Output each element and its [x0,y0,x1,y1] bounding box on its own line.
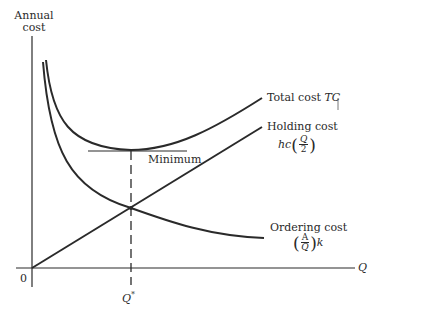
x-axis-label: Q [358,262,367,274]
optimum-symbol: Q [122,292,131,305]
total-cost-symbol: TC [324,91,340,104]
y-axis-label-line2: cost [12,22,56,34]
holding-cost-formula: hc(Q2) [278,135,316,154]
open-paren: ( [291,135,298,155]
ordering-cost-curve [43,62,264,238]
origin-label: 0 [20,273,27,285]
close-paren: ) [309,135,316,155]
ordering-fraction: AQ [301,233,310,252]
total-cost-curve [46,60,262,150]
close-paren: ) [310,233,317,253]
holding-cost-label: Holding cost [267,121,338,133]
holding-cost-prefix: hc [278,138,291,151]
intersection-point [129,206,133,210]
holding-denominator: 2 [301,145,307,154]
eoq-diagram: Annual cost 0 Q Q* Minimum Total cost TC… [0,0,430,310]
y-axis-label: Annual cost [12,10,56,34]
total-cost-label: Total cost TC [267,92,340,104]
open-paren: ( [293,233,300,253]
total-cost-name: Total cost [267,91,321,104]
minimum-label: Minimum [148,154,201,166]
optimum-star: * [131,290,135,299]
optimum-label: Q* [122,289,135,305]
ordering-cost-formula: (AQ)k [293,233,323,252]
holding-fraction: Q2 [299,135,308,154]
ordering-denominator: Q [301,243,308,252]
ordering-suffix: k [317,236,324,249]
